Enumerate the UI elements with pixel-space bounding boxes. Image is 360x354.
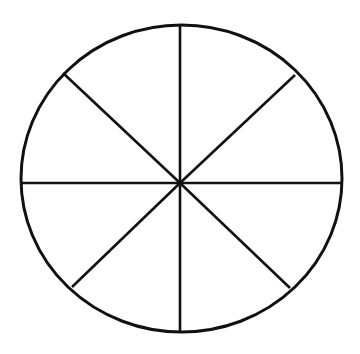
eight-sector-circle-diagram	[0, 0, 360, 354]
spoke-lower-right	[180, 183, 290, 288]
circle-outline	[21, 25, 342, 332]
spoke-upper-left	[63, 73, 180, 183]
spoke-upper-right	[180, 75, 295, 183]
spokes-group	[22, 25, 341, 331]
spoke-lower-left	[72, 183, 180, 287]
